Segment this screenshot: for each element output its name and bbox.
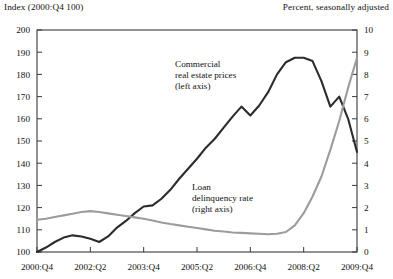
annotation-1-line-1: Commercial — [175, 59, 221, 69]
annotation-2-line-2: delinquency rate — [192, 193, 253, 203]
x-axis-tick-label: 2009:Q4 — [341, 262, 374, 272]
left-axis-tick-label: 140 — [16, 159, 30, 169]
x-axis-tick-label: 2000:Q4 — [21, 262, 54, 272]
right-axis-tick-label: 4 — [364, 159, 369, 169]
x-axis-group: 2000:Q42002:Q22003:Q42005:Q22006:Q42008:… — [21, 247, 374, 272]
left-axis-group: 100110120130140150160170180190200 — [16, 25, 42, 257]
left-axis-tick-label: 200 — [16, 25, 30, 35]
x-axis-tick-label: 2008:Q2 — [288, 262, 321, 272]
right-axis-tick-label: 3 — [364, 181, 369, 191]
left-axis-tick-label: 150 — [16, 136, 30, 146]
x-axis-tick-label: 2005:Q2 — [181, 262, 214, 272]
right-axis-tick-label: 5 — [364, 136, 369, 146]
left-axis-tick-label: 160 — [16, 114, 30, 124]
left-axis-tick-label: 130 — [16, 181, 30, 191]
x-axis-tick-label: 2002:Q2 — [74, 262, 107, 272]
right-axis-tick-label: 0 — [364, 247, 369, 257]
x-axis-tick-label: 2003:Q4 — [128, 262, 161, 272]
right-axis-tick-label: 6 — [364, 114, 369, 124]
right-axis-tick-label: 2 — [364, 203, 369, 213]
left-axis-tick-label: 110 — [17, 225, 31, 235]
chart-canvas: 100110120130140150160170180190200 012345… — [0, 0, 393, 279]
annotation-1-line-3: (left axis) — [175, 81, 210, 91]
right-axis-tick-label: 1 — [364, 225, 369, 235]
left-axis-tick-label: 180 — [16, 70, 30, 80]
annotation-loan-delinquency: Loan delinquency rate (right axis) — [192, 182, 253, 214]
left-axis-tick-label: 170 — [16, 92, 30, 102]
left-axis-tick-label: 190 — [16, 48, 30, 58]
x-axis-tick-label: 2006:Q4 — [234, 262, 267, 272]
right-axis-tick-label: 8 — [364, 70, 369, 80]
annotation-2-line-3: (right axis) — [192, 204, 233, 214]
right-axis-tick-label: 7 — [364, 92, 369, 102]
annotation-2-line-1: Loan — [192, 182, 211, 192]
right-axis-tick-label: 10 — [364, 25, 374, 35]
commercial-real-estate-chart: Index (2000:Q4 100) Percent, seasonally … — [0, 0, 393, 279]
left-axis-tick-label: 100 — [16, 247, 30, 257]
annotation-commercial-real-estate: Commercial real estate prices (left axis… — [175, 59, 237, 91]
left-axis-tick-label: 120 — [16, 203, 30, 213]
right-axis-tick-label: 9 — [364, 48, 369, 58]
annotation-1-line-2: real estate prices — [175, 70, 237, 80]
